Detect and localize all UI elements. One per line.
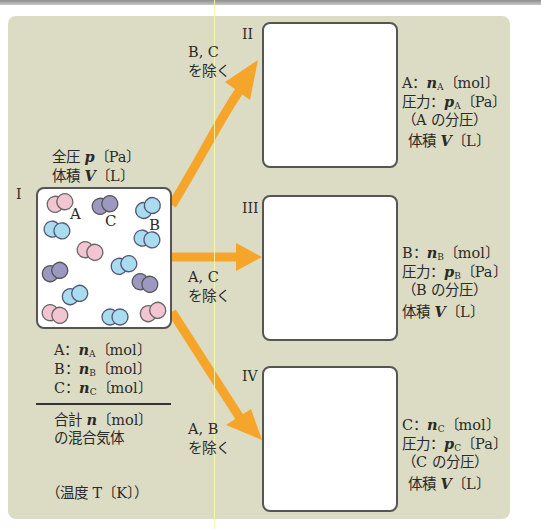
label-II: II — [242, 26, 253, 42]
arrow-label-IV-species: A, B — [188, 420, 218, 439]
sum-divider — [36, 403, 171, 405]
total-amount: 合計 n〔mol〕 — [54, 410, 152, 430]
mixture-label: の混合気体 — [54, 429, 124, 448]
result-II-volume: 体積 V〔L〕 — [408, 131, 490, 151]
temperature-label: （温度 T〔K〕） — [46, 484, 148, 503]
container-IV — [262, 366, 398, 512]
result-IV-partial: （C の分圧） — [402, 453, 488, 472]
container-III — [262, 195, 398, 341]
result-III-partial: （B の分圧） — [402, 281, 487, 300]
container-II — [262, 22, 398, 168]
label-III: III — [242, 200, 259, 216]
result-III-volume: 体積 V〔L〕 — [402, 302, 484, 322]
amount-C: C：nC〔mol〕 — [54, 378, 152, 402]
arrow-label-II-species: B, C — [188, 43, 219, 62]
arrow-label-III-action: を除く — [188, 287, 230, 306]
result-II-partial: （A の分圧） — [402, 111, 487, 130]
arrow-label-II-action: を除く — [188, 62, 230, 81]
result-IV-volume: 体積 V〔L〕 — [408, 474, 490, 494]
arrow-label-IV-action: を除く — [188, 439, 230, 458]
label-IV: IV — [242, 368, 258, 384]
arrow-label-III-species: A, C — [188, 268, 219, 287]
